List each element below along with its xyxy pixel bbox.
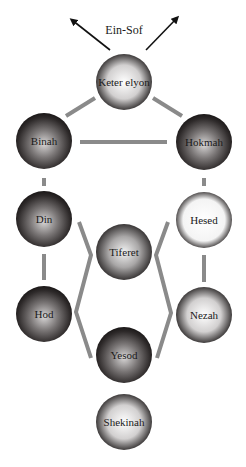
node-keter: Keter elyon xyxy=(96,54,152,110)
node-label-shekinah: Shekinah xyxy=(104,416,145,428)
node-tiferet: Tiferet xyxy=(96,224,152,280)
sefirot-tree-diagram: Ein-Sof Keter elyonBinahHokmahDinHesedTi… xyxy=(0,0,246,467)
node-hod: Hod xyxy=(16,286,72,342)
arrow-up-left-icon xyxy=(72,20,110,50)
node-label-binah: Binah xyxy=(31,135,58,147)
node-hesed: Hesed xyxy=(176,192,232,248)
node-label-keter: Keter elyon xyxy=(98,76,150,88)
node-label-hesed: Hesed xyxy=(190,214,218,226)
arrow-up-right-icon xyxy=(146,18,177,50)
connector-hesed-tiferet-nezah-yesod-right-chevron xyxy=(156,222,171,358)
ein-sof-label: Ein-Sof xyxy=(105,23,142,37)
node-binah: Binah xyxy=(16,113,72,169)
node-label-tiferet: Tiferet xyxy=(109,246,139,258)
node-label-din: Din xyxy=(36,213,53,225)
node-label-hokmah: Hokmah xyxy=(185,136,223,148)
sefirot-nodes: Keter elyonBinahHokmahDinHesedTiferetHod… xyxy=(16,54,232,450)
node-hokmah: Hokmah xyxy=(176,114,232,170)
node-label-hod: Hod xyxy=(35,308,54,320)
connector-din-tiferet-hod-yesod-left-chevron xyxy=(76,222,91,358)
connector-keter-hokmah xyxy=(153,98,182,116)
node-nezah: Nezah xyxy=(176,287,232,343)
node-shekinah: Shekinah xyxy=(96,394,152,450)
connector-keter-binah xyxy=(66,98,95,116)
node-yesod: Yesod xyxy=(96,327,152,383)
node-label-yesod: Yesod xyxy=(110,349,138,361)
node-din: Din xyxy=(16,191,72,247)
node-label-nezah: Nezah xyxy=(190,309,219,321)
